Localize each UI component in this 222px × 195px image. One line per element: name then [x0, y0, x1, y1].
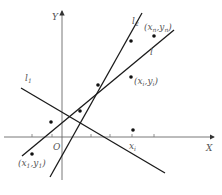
data-points [30, 34, 156, 156]
point-label-n: (xn,yn) [144, 22, 172, 33]
point-label-i: (xi,yi) [134, 76, 158, 87]
line-l1-label: l1 [25, 73, 32, 84]
origin-label: O [53, 142, 61, 152]
line-l2-label: l2 [132, 16, 139, 27]
point-label-1: (x1,y1) [18, 158, 46, 169]
line-l-label: l [150, 47, 153, 57]
x-tick-label-xi: xi [129, 141, 136, 152]
x-axis-label: X [205, 143, 213, 153]
y-axis-label: Y [52, 12, 59, 22]
regression-diagram: Y X O l1 l2 l (xn,yn) (xi,yi) (x1,y1) xi [0, 0, 222, 195]
